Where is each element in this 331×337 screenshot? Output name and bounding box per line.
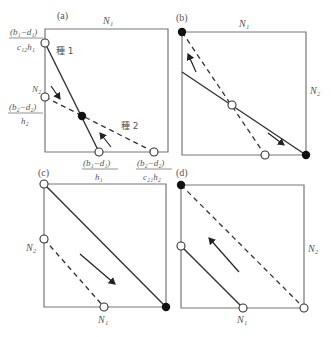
panel-d: (d) N₂ N₁ — [176, 167, 319, 325]
panel-a-y-intercept-sp1-num: (b₁−d₁) — [10, 27, 37, 37]
open-point — [177, 242, 185, 250]
open-point — [95, 148, 103, 156]
panel-b: (b) N₁ N₂ — [176, 12, 321, 159]
stable-corner-point — [302, 151, 310, 159]
panel-a-x-intercept-sp2-num: (b₂−d₂) — [137, 158, 164, 168]
stable-equilibrium-point — [78, 112, 86, 120]
trajectory-arrow-icon — [100, 133, 111, 147]
open-point — [40, 180, 48, 188]
species1-isocline — [181, 246, 243, 308]
panel-c-tag: (c) — [38, 167, 49, 179]
trajectory-arrow-icon — [209, 238, 239, 272]
panel-b-tag: (b) — [176, 12, 188, 24]
panel-a-y-intercept-sp2-den: h₂ — [21, 116, 29, 126]
stable-equilibrium-point — [162, 303, 170, 311]
stable-corner-point — [178, 28, 186, 36]
competition-isocline-figure: (a) N₁ (b₁−d₁) c₁₂h₁ N₂ (b₂−d₂) h₂ (b₁−d… — [0, 0, 331, 337]
panel-a-n2-label: N₂ — [31, 84, 41, 94]
trajectory-arrow-icon — [80, 254, 115, 284]
species1-label: 種 1 — [56, 46, 74, 56]
panel-a: (a) N₁ (b₁−d₁) c₁₂h₁ N₂ (b₂−d₂) h₂ (b₁−d… — [8, 10, 172, 182]
panel-d-bottom-axis-label: N₁ — [236, 314, 247, 325]
open-point — [150, 148, 158, 156]
panel-a-y-intercept-sp2-num: (b₂−d₂) — [9, 102, 36, 112]
open-point — [239, 304, 247, 312]
open-point — [261, 151, 269, 159]
open-point — [40, 235, 48, 243]
panel-a-x-intercept-sp2-den: c₂₁h₂ — [143, 172, 161, 182]
panel-a-y-intercept-sp1-den: c₁₂h₁ — [17, 42, 35, 52]
panel-c: (c) N₂ N₁ — [25, 167, 170, 325]
trajectory-arrow-icon — [51, 86, 60, 99]
panel-c-left-axis-label: N₂ — [25, 242, 37, 253]
species1-isocline — [182, 72, 306, 155]
open-point — [41, 39, 49, 47]
open-point — [41, 93, 49, 101]
species2-isocline — [182, 32, 265, 155]
unstable-equilibrium-point — [228, 101, 236, 109]
panel-a-top-axis-label: N₁ — [102, 15, 113, 26]
panel-b-top-axis-label: N₁ — [238, 18, 249, 29]
panel-a-tag: (a) — [57, 10, 68, 22]
panel-a-x-intercept-sp1-den: h₁ — [95, 172, 103, 182]
panel-d-tag: (d) — [176, 167, 188, 179]
species1-isocline — [45, 43, 99, 152]
panel-d-right-axis-label: N₂ — [307, 243, 319, 254]
species2-label: 種 2 — [121, 121, 139, 131]
species2-isocline — [181, 185, 304, 308]
species2-isocline — [44, 239, 104, 307]
panel-a-x-intercept-sp1-num: (b₁−d₁) — [83, 158, 110, 168]
panel-c-bottom-axis-label: N₁ — [97, 314, 108, 325]
panel-b-right-axis-label: N₂ — [309, 85, 321, 96]
species1-isocline — [44, 184, 166, 307]
stable-equilibrium-point — [177, 181, 185, 189]
open-point — [100, 303, 108, 311]
trajectory-arrow-icon — [188, 54, 196, 72]
open-point — [300, 304, 308, 312]
panel-b-frame — [182, 32, 306, 155]
